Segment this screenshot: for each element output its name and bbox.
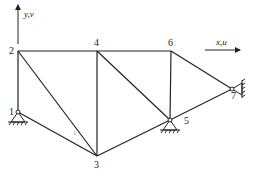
element-label: 1 (73, 129, 77, 137)
member-4-5 (97, 51, 170, 120)
node-label-3: 3 (94, 159, 99, 170)
member-2-3 (18, 51, 97, 156)
member-5-6 (170, 51, 171, 120)
truss-members (18, 51, 232, 156)
member-5-7 (170, 89, 232, 120)
y-axis-label: y,v (23, 9, 34, 19)
node-label-6: 6 (168, 37, 173, 48)
node-label-5: 5 (184, 115, 189, 126)
x-axis-label: x,u (215, 37, 227, 47)
pin-support-node-5 (160, 118, 180, 133)
node-label-7: 7 (231, 90, 236, 101)
node-label-2: 2 (9, 45, 14, 56)
member-3-5 (97, 120, 170, 156)
truss-diagram: y,v x,u (0, 0, 257, 179)
member-6-7 (171, 51, 232, 89)
member-1-3 (18, 112, 97, 156)
node-label-1: 1 (9, 106, 14, 117)
node-label-4: 4 (94, 37, 99, 48)
